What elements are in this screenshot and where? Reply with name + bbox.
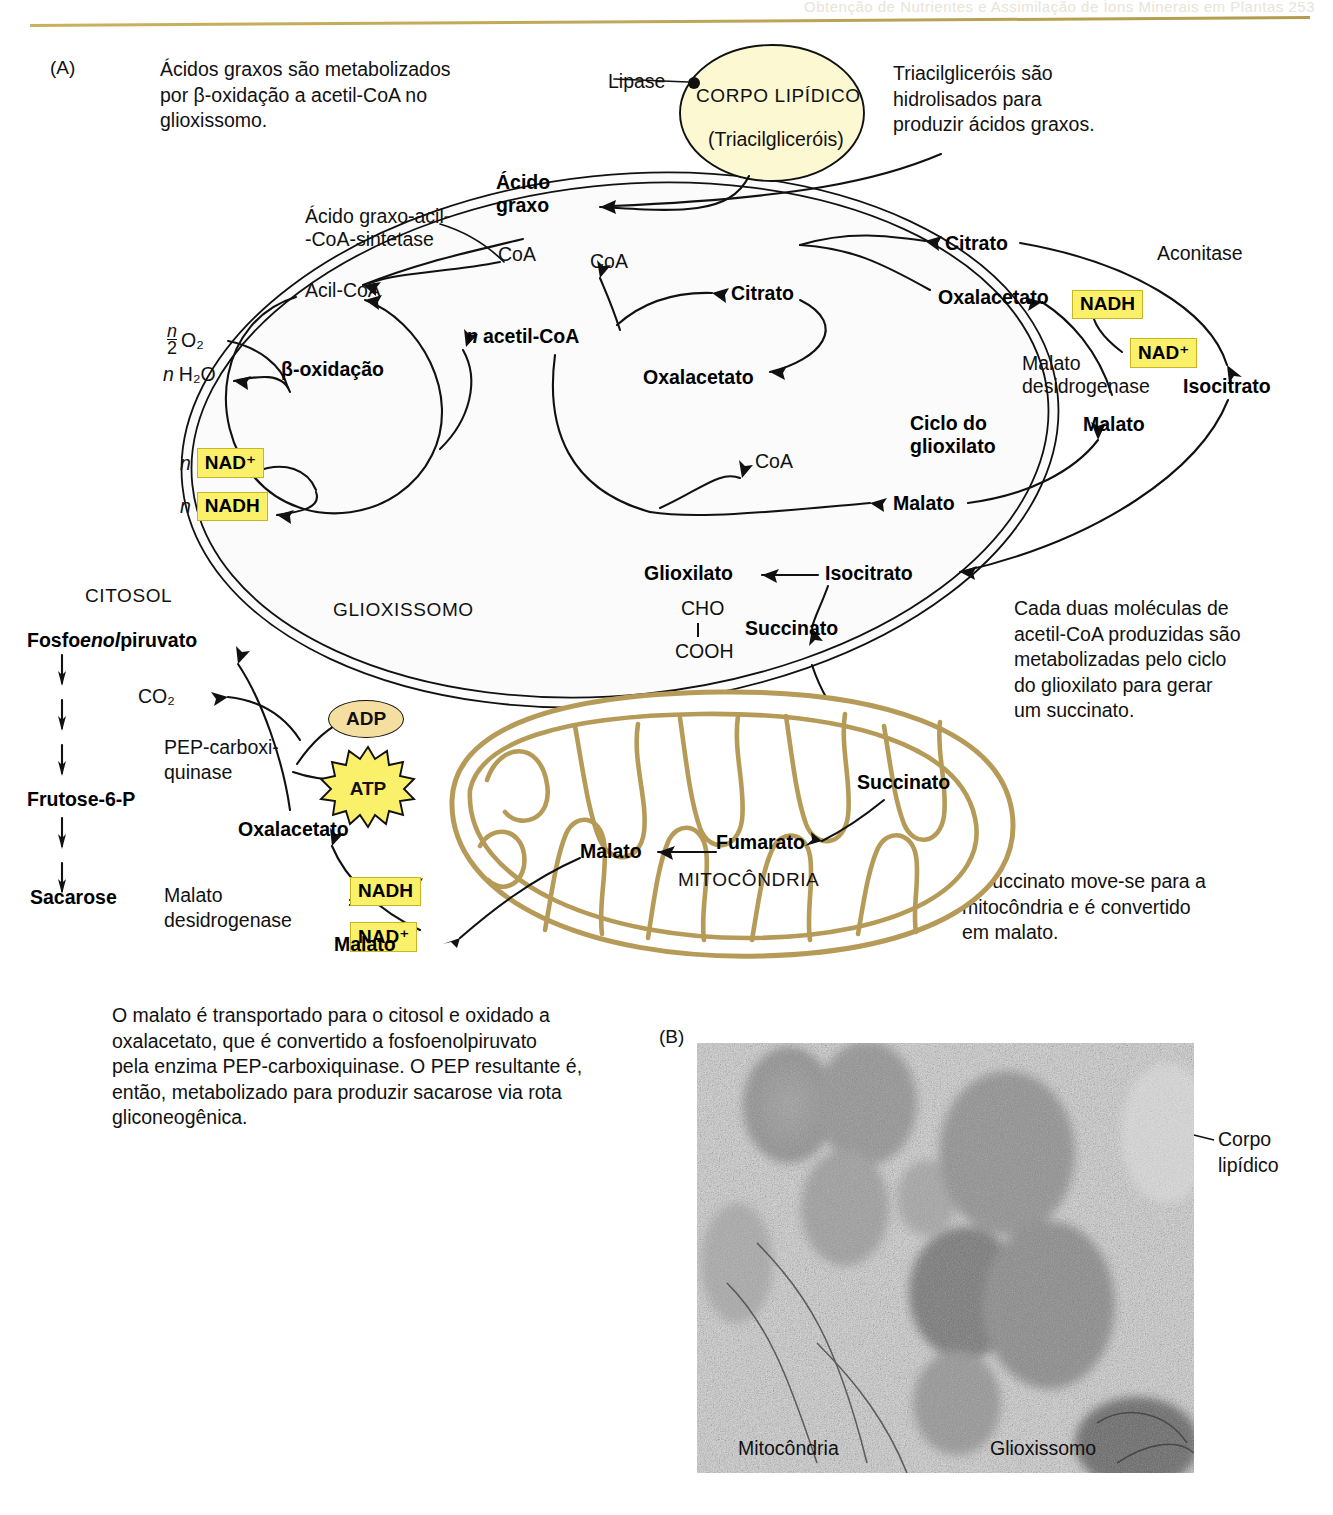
oxaloacetate-cytosol-label: Oxalacetato	[238, 818, 349, 841]
isocitrate-outer-label: Isocitrato	[1183, 375, 1271, 398]
pep-carboxykinase-label: PEP-carboxi- quinase	[164, 735, 279, 785]
oxygen-stoichiometry: n 2 O₂	[167, 324, 204, 356]
nadh-chip-cycle[interactable]: NADH	[1072, 290, 1143, 319]
atp-starburst[interactable]: ATP	[313, 745, 423, 809]
o2-coef-denominator: 2	[167, 339, 177, 356]
water-label: H₂O	[179, 363, 216, 386]
nadh-group-betaox: n NADH	[180, 492, 268, 521]
lipid-body-shape	[614, 45, 864, 181]
malate-inner-label: Malato	[893, 492, 955, 515]
fructose-6p-label: Frutose-6-P	[27, 788, 135, 811]
glyoxysome-compartment-label: GLIOXISSOMO	[333, 599, 474, 621]
nad-plus-group-betaox: n NAD⁺	[180, 448, 264, 478]
succinate-label: Succinato	[745, 617, 838, 640]
isocitrate-inner-label: Isocitrato	[825, 562, 913, 585]
nadh-coef: n	[180, 495, 191, 518]
pep-label: Fosfoenolpiruvato	[27, 629, 197, 652]
fatty-acid-label: Ácido graxo	[496, 171, 550, 217]
oxaloacetate-outer-label: Oxalacetato	[938, 286, 1049, 309]
aconitase-label: Aconitase	[1157, 242, 1243, 265]
micrograph-label-lipid-body: Corpo lipídico	[1218, 1126, 1279, 1178]
glyoxylate-cooh: COOH	[675, 640, 734, 663]
succinate-mito-label: Succinato	[857, 771, 950, 794]
water-coef: n	[163, 363, 174, 386]
nad-plus-chip-betaox[interactable]: NAD⁺	[197, 448, 264, 478]
lipid-body-subtitle: (Triacilgliceróis)	[708, 128, 844, 151]
malate-mito-label: Malato	[580, 840, 642, 863]
mitochondrion-compartment-label: MITOCÔNDRIA	[678, 869, 819, 891]
n-acetyl-coa-group: n acetil-CoA	[466, 325, 579, 348]
electron-micrograph	[697, 1043, 1194, 1473]
lipase-label: Lipase	[608, 70, 665, 93]
fumarate-label: Fumarato	[716, 831, 805, 854]
nadh-chip-cytosol[interactable]: NADH	[350, 877, 421, 906]
malate-outer-label: Malato	[1083, 413, 1145, 436]
malate-dehydrogenase-label-cytosol: Malato desidrogenase	[164, 883, 292, 933]
adp-badge[interactable]: ADP	[328, 700, 404, 738]
malate-dehydrogenase-label-cycle: Malato desidrogenase	[1022, 352, 1150, 398]
co2-label: CO₂	[138, 685, 175, 708]
oxaloacetate-inner-label: Oxalacetato	[643, 366, 754, 389]
lipid-body-title: CORPO LIPÍDICO	[696, 85, 861, 107]
glyoxylate-bond	[697, 623, 699, 637]
micrograph-label-mitochondria: Mitocôndria	[738, 1436, 839, 1462]
sucrose-label: Sacarose	[30, 886, 117, 909]
panel-b-label: (B)	[659, 1026, 684, 1048]
acyl-coa-label: Acil-CoA	[305, 279, 381, 302]
beta-oxidation-label: β-oxidação	[281, 358, 384, 381]
glyoxylate-label: Glioxilato	[644, 562, 733, 585]
micrograph-content	[697, 1043, 1194, 1473]
nadh-chip-betaox[interactable]: NADH	[197, 492, 268, 521]
n-acetyl-coa-label: acetil-CoA	[483, 325, 579, 348]
gluconeogenesis-arrows	[58, 655, 66, 894]
coa-label-2: CoA	[590, 250, 628, 273]
glyoxylate-cycle-title: Ciclo do glioxilato	[910, 412, 996, 458]
arrow-to-co2	[228, 697, 300, 740]
nad-plus-coef: n	[180, 452, 191, 475]
coa-label-1: CoA	[498, 243, 536, 266]
citrate-inner-label: Citrato	[731, 282, 794, 305]
coa-label-3: CoA	[755, 450, 793, 473]
citrate-outer-label: Citrato	[945, 232, 1008, 255]
glyoxylate-cho: CHO	[681, 597, 724, 620]
atp-label: ATP	[350, 778, 387, 799]
o2-label: O₂	[181, 329, 204, 352]
acyl-coa-synthetase-label: Ácido graxo-acil- -CoA-sintetase	[305, 205, 450, 251]
malate-cytosol-label: Malato	[334, 933, 396, 956]
cytosol-compartment-label: CITOSOL	[85, 585, 172, 607]
micrograph-label-glyoxysome: Glioxissomo	[990, 1436, 1096, 1462]
mitochondrion-shape	[452, 692, 1013, 956]
water-output: n H₂O	[163, 363, 216, 386]
n-acetyl-coa-coef: n	[466, 325, 478, 348]
